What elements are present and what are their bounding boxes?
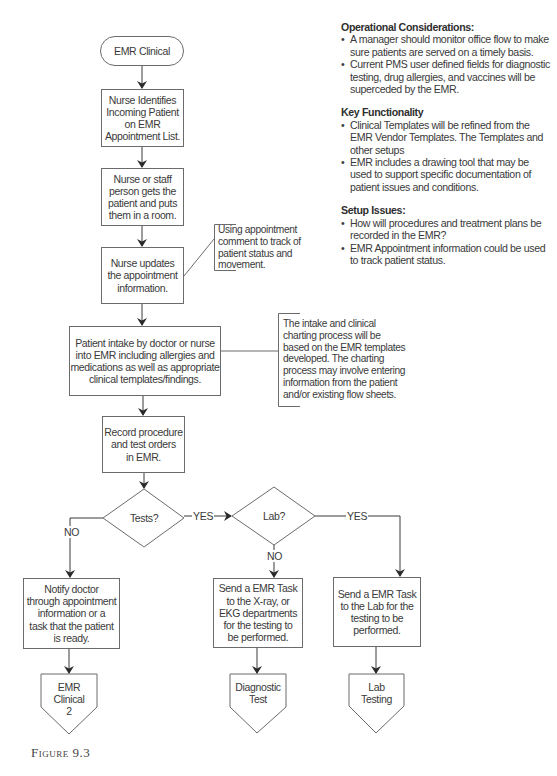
list-item: EMR includes a drawing tool that may be … (341, 156, 553, 193)
notify-step: Notify doctor through appointment inform… (23, 578, 120, 649)
intake-annotation: The intake and clinical charting process… (283, 318, 423, 401)
lab-decision: Lab? (243, 508, 305, 524)
list-item: A manager should monitor office flow to … (341, 33, 553, 58)
list-item: Clinical Templates will be refined from … (341, 119, 553, 156)
annotation-connector-appointment (184, 239, 214, 276)
labtask-step: Send a EMR Task to the Lab for the testi… (333, 577, 421, 647)
setup-issues-list: How will procedures and treatment plans … (341, 217, 553, 267)
update-step: Nurse updates the appointment informatio… (101, 247, 184, 304)
edge-lab-yes (315, 516, 400, 576)
record-step: Record procedure and test orders in EMR. (102, 416, 185, 473)
key-functionality-list: Clinical Templates will be refined from … (341, 119, 553, 193)
operational-considerations-title: Operational Considerations: (341, 21, 553, 33)
intake-step: Patient intake by doctor or nurse into E… (69, 326, 221, 396)
identify-step: Nurse Identifies Incoming Patient on EMR… (101, 89, 184, 147)
tests-yes-label: YES (192, 510, 214, 522)
figure-caption: Figure 9.3 (31, 745, 90, 761)
list-item: How will procedures and treatment plans … (341, 217, 553, 242)
operational-considerations-list: A manager should monitor office flow to … (341, 33, 553, 95)
room-step: Nurse or staff person gets the patient a… (101, 168, 184, 226)
list-item: EMR Appointment information could be use… (341, 242, 553, 267)
diagnostic-offpage: Diagnostic Test (230, 681, 286, 711)
tests-no-label: NO (63, 526, 80, 538)
list-item: Current PMS user defined fields for diag… (341, 58, 553, 95)
xray-step: Send a EMR Task to the X-ray, or EKG dep… (213, 578, 303, 648)
clinical2-offpage: EMR Clinical 2 (41, 681, 97, 717)
setup-issues-title: Setup Issues: (341, 204, 553, 216)
lab-no-label: NO (266, 550, 283, 562)
lab-yes-label: YES (346, 510, 368, 522)
appointment-annotation: Using appointment comment to track of pa… (218, 224, 328, 271)
tests-decision: Tests? (113, 510, 175, 526)
start-terminator: EMR Clinical (100, 36, 184, 66)
key-functionality-title: Key Functionality (341, 106, 553, 118)
notes-panel: Operational Considerations: A manager sh… (341, 21, 553, 277)
labtesting-offpage: Lab Testing (349, 681, 404, 711)
